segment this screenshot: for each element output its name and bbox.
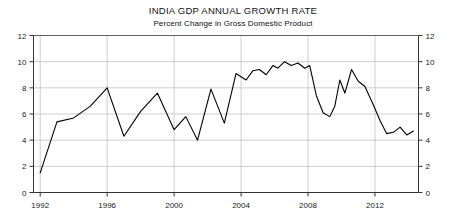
series-line-india-gdp-growth [40,62,413,173]
y-tick-label-right: 4 [426,136,431,145]
data-series-line [40,62,413,173]
y-tick-label-right: 0 [426,189,431,198]
x-tick-label: 2004 [232,201,250,210]
y-tick-label-right: 8 [426,84,431,93]
plot-area: 024681012 024681012 19921996200020042008… [0,0,466,223]
x-tick-label: 2012 [366,201,384,210]
x-axis-ticks: 199219962000200420082012 [31,193,384,210]
y-axis-ticks-right: 024681012 [419,32,435,198]
x-tick-label: 2000 [165,201,183,210]
y-tick-label-right: 6 [426,110,431,119]
y-tick-label-right: 12 [426,32,435,41]
y-tick-label-left: 12 [18,32,27,41]
gdp-growth-chart: INDIA GDP ANNUAL GROWTH RATE Percent Cha… [0,0,466,223]
y-tick-label-left: 6 [22,110,27,119]
y-tick-label-right: 10 [426,58,435,67]
y-tick-label-left: 10 [18,58,27,67]
x-tick-label: 2008 [299,201,317,210]
x-tick-label: 1992 [31,201,49,210]
y-tick-label-left: 4 [22,136,27,145]
y-axis-ticks-left: 024681012 [18,32,34,198]
y-tick-label-left: 2 [22,162,27,171]
x-tick-label: 1996 [98,201,116,210]
y-tick-label-right: 2 [426,162,431,171]
y-tick-label-left: 8 [22,84,27,93]
y-tick-label-left: 0 [22,189,27,198]
